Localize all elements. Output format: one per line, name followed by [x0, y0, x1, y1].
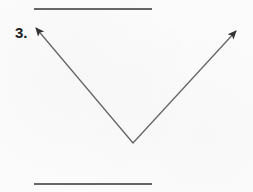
ray-left: [36, 28, 133, 143]
ray-right: [133, 31, 236, 143]
worksheet-canvas: 3.: [0, 0, 253, 192]
answer-line-bottom[interactable]: [34, 183, 152, 185]
vertex-point: [132, 142, 133, 143]
angle-figure: [0, 0, 253, 192]
